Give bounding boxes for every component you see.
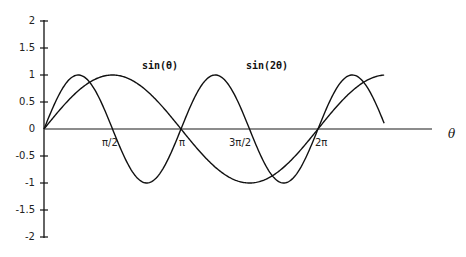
- y-tick-label: 2: [29, 15, 35, 26]
- series-label-sin-theta: sin(θ): [142, 60, 178, 71]
- y-tick-label: 0: [29, 123, 35, 134]
- x-tick-label: 2π: [315, 137, 327, 148]
- x-tick-label: π: [179, 137, 185, 148]
- y-tick-label: -0.5: [15, 150, 35, 161]
- y-tick-label: -1.5: [15, 204, 35, 215]
- y-axis: 2 1.5 1 0.5 0 -0.5 -1 -1.5 -2: [15, 15, 48, 242]
- y-tick-label: 1: [29, 69, 35, 80]
- sine-chart: 2 1.5 1 0.5 0 -0.5 -1 -1.5 -2 π/2 π 3π/2…: [0, 0, 466, 257]
- series-label-sin-2theta: sin(2θ): [246, 60, 288, 71]
- x-tick-label: π/2: [102, 137, 118, 148]
- y-tick-label: 1.5: [19, 42, 35, 53]
- x-tick-label: 3π/2: [229, 137, 251, 148]
- x-axis-title: θ: [448, 127, 456, 141]
- y-tick-label: 0.5: [19, 96, 35, 107]
- y-tick-label: -2: [25, 231, 35, 242]
- y-tick-label: -1: [25, 177, 35, 188]
